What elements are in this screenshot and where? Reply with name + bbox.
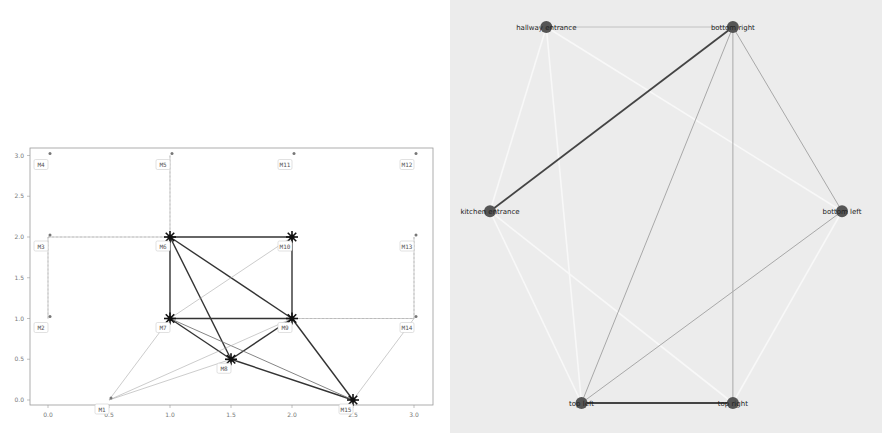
- node-label: top right: [718, 400, 748, 408]
- y-tick-label: 0.0: [14, 396, 24, 403]
- node-label: M3: [37, 243, 45, 250]
- node-label: top left: [569, 400, 594, 408]
- x-tick-label: 0.0: [43, 411, 53, 418]
- y-tick-label: 2.0: [14, 233, 24, 240]
- node-label: bottom right: [711, 24, 755, 32]
- node-label: M11: [280, 161, 291, 168]
- edge: [490, 211, 582, 403]
- y-tick-label: 0.5: [14, 355, 24, 362]
- y-tick-label: 2.5: [14, 192, 24, 199]
- node-label: M7: [159, 324, 167, 331]
- right-network-graph: hallway entrancebottom rightkitchen entr…: [450, 0, 882, 433]
- node-label: M12: [402, 161, 413, 168]
- left-plot-canvas: 0.00.51.01.52.02.53.00.00.51.01.52.02.53…: [0, 0, 445, 433]
- edge: [733, 211, 842, 403]
- left-network-plot: 0.00.51.01.52.02.53.00.00.51.01.52.02.53…: [0, 0, 445, 433]
- node-label: M8: [220, 365, 228, 372]
- node-label: M2: [37, 324, 45, 331]
- node-label: M14: [402, 324, 413, 331]
- x-tick-label: 2.0: [287, 411, 297, 418]
- x-tick-label: 3.0: [409, 411, 419, 418]
- node-label: M15: [341, 406, 352, 413]
- right-graph-canvas: hallway entrancebottom rightkitchen entr…: [450, 0, 882, 433]
- y-tick-label: 1.5: [14, 274, 24, 281]
- node-label: M10: [280, 243, 291, 250]
- node-label: M9: [281, 324, 289, 331]
- node-label: kitchen entrance: [460, 208, 519, 216]
- y-tick-label: 3.0: [14, 152, 24, 159]
- node-label: M13: [402, 243, 413, 250]
- y-tick-label: 1.0: [14, 315, 24, 322]
- edge: [490, 211, 733, 403]
- node-label: M4: [37, 161, 45, 168]
- edge: [546, 27, 842, 211]
- node-label: M1: [98, 406, 106, 413]
- node-label: M5: [159, 161, 167, 168]
- edge: [546, 27, 581, 403]
- node-hallway-entrance: hallway entrance: [516, 21, 576, 33]
- node-top-left: top left: [569, 397, 594, 409]
- node-bottom-left: bottom left: [823, 205, 862, 217]
- node-bottom-right: bottom right: [711, 21, 755, 33]
- node-kitchen-entrance: kitchen entrance: [460, 205, 519, 217]
- x-tick-label: 1.0: [165, 411, 175, 418]
- node-label: hallway entrance: [516, 24, 576, 32]
- edge: [490, 27, 733, 211]
- node-label: bottom left: [823, 208, 862, 216]
- node-label: M6: [159, 243, 167, 250]
- plot-frame: [30, 148, 433, 405]
- edge: [490, 27, 546, 211]
- edge: [733, 27, 842, 211]
- x-tick-label: 1.5: [226, 411, 236, 418]
- node-top-right: top right: [718, 397, 748, 409]
